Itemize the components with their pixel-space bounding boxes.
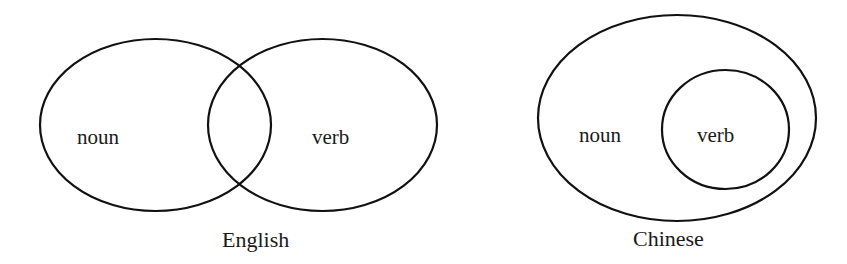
english-verb-label: verb — [312, 125, 349, 149]
english-noun-label: noun — [77, 125, 120, 149]
chinese-noun-ellipse — [538, 15, 816, 221]
english-caption: English — [222, 227, 289, 252]
diagram-canvas: noun verb English noun verb Chinese — [0, 0, 847, 264]
chinese-caption: Chinese — [633, 226, 704, 251]
english-venn-diagram: noun verb English — [40, 39, 437, 252]
english-noun-ellipse — [40, 39, 271, 211]
chinese-noun-label: noun — [579, 123, 622, 147]
chinese-nested-diagram: noun verb Chinese — [538, 15, 816, 251]
chinese-verb-label: verb — [697, 123, 734, 147]
